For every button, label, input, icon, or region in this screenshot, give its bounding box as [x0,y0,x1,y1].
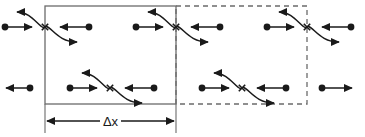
velocity-arrow-outgoing-upleft [214,73,241,89]
figure-canvas: Δx [0,0,365,137]
delta-x-label: Δx [103,114,119,129]
particle-dot-incoming-left [264,24,271,31]
collision-top-middle [133,12,224,42]
particle-dot [319,85,326,92]
velocity-arrow-outgoing-upleft [82,73,109,89]
collision-mid-left [67,73,158,103]
velocity-arrow-outgoing-upleft [279,12,306,28]
collision-top-left [2,12,93,42]
free-particle-left [6,85,33,92]
velocity-arrow-outgoing-upleft [17,12,44,28]
collision-mid-right [199,73,290,103]
particle-dot [27,85,34,92]
collision-diagram-svg: Δx [0,0,365,137]
particle-dot-incoming-left [199,85,206,92]
velocity-arrow-outgoing-downright [46,26,77,42]
particle-dot-incoming-left [67,85,74,92]
free-particles-layer [6,85,352,92]
particle-dot-incoming-right [348,24,355,31]
delta-x-dimension-line: Δx [45,104,176,133]
collision-events-layer [2,12,355,103]
particle-dot-incoming-right [283,85,290,92]
collision-top-right [264,12,355,42]
velocity-arrow-outgoing-downright [308,26,339,42]
control-volume-boxes [45,6,307,104]
velocity-arrow-outgoing-downright [243,87,274,103]
particle-dot-incoming-right [217,24,224,31]
velocity-arrow-outgoing-upleft [148,12,175,28]
velocity-arrow-outgoing-downright [177,26,208,42]
free-particle-right [319,85,352,92]
velocity-arrow-outgoing-downright [111,87,142,103]
particle-dot-incoming-left [2,24,9,31]
particle-dot-incoming-left [133,24,140,31]
particle-dot-incoming-right [86,24,93,31]
particle-dot-incoming-right [151,85,158,92]
